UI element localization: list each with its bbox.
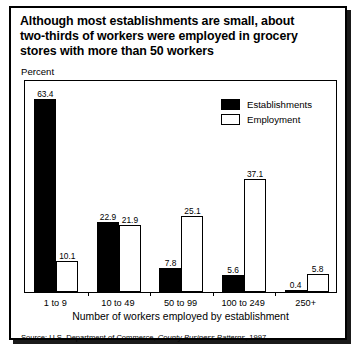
legend-label-employment: Employment [247,114,300,125]
legend-swatch-employment [221,114,240,125]
bar-employment-250+: 5.8 [307,274,329,292]
bar-value-label: 37.1 [247,170,263,179]
legend-swatch-establishments [221,99,240,110]
bar-establishments-10-to-49: 22.9 [97,222,119,292]
bar-value-label: 7.8 [165,259,177,268]
x-axis-tick-label: 250+ [295,298,316,309]
bar-establishments-100-to-249: 5.6 [222,275,244,292]
chart-title-line-1: Although most establishments are small, … [20,14,338,29]
bar-employment-10-to-49: 21.9 [119,225,141,292]
bar-employment-50-to-99: 25.1 [181,216,203,292]
bar-establishments-1-to-9: 63.4 [34,99,56,292]
legend-item-employment: Employment [221,114,312,125]
x-axis-tick [275,292,276,296]
x-axis-tick-label: 10 to 49 [101,298,134,309]
source-prefix: Source: U.S. Department of Commerce, [21,333,158,342]
bar-value-label: 5.6 [227,266,239,275]
x-axis-tick [213,292,214,296]
bar-group: 22.921.9 [88,81,151,292]
x-axis-tick-label: 1 to 9 [44,298,67,309]
figure-panel: Although most establishments are small, … [9,6,347,340]
chart-title-line-2: two-thirds of workers were employed in g… [20,29,338,44]
source-suffix: , 1997 [245,333,266,342]
x-axis-tick [88,292,89,296]
bar-value-label: 25.1 [184,207,200,216]
legend-item-establishments: Establishments [221,99,312,110]
bar-group: 63.410.1 [25,81,88,292]
bar-value-label: 63.4 [37,90,53,99]
chart-title: Although most establishments are small, … [20,14,338,60]
bar-establishments-50-to-99: 7.8 [159,268,181,292]
source-publication: County Business Patterns [158,333,245,342]
bar-employment-100-to-249: 37.1 [244,179,266,292]
x-axis-tick-label: 100 to 249 [221,298,264,309]
legend-label-establishments: Establishments [247,99,312,110]
bar-value-label: 22.9 [100,213,116,222]
chart-title-line-3: stores with more than 50 workers [20,44,338,59]
bar-value-label: 0.4 [290,281,302,290]
x-axis-tick [150,292,151,296]
chart-legend: Establishments Employment [221,99,312,129]
x-axis-title: Number of workers employed by establishm… [24,311,337,322]
bar-group: 7.825.1 [150,81,213,292]
bar-value-label: 5.8 [312,265,324,274]
plot-area: 63.410.122.921.97.825.15.637.10.45.8 Est… [24,80,337,293]
y-axis-unit-label: Percent [21,66,54,77]
bar-value-label: 21.9 [122,216,138,225]
bar-employment-1-to-9: 10.1 [56,261,78,292]
source-note: Source: U.S. Department of Commerce, Cou… [21,333,266,342]
bar-value-label: 10.1 [59,252,75,261]
x-axis-tick-label: 50 to 99 [164,298,197,309]
x-axis-tick-labels: 1 to 910 to 4950 to 99100 to 249250+ [24,298,337,310]
bar-establishments-250+: 0.4 [285,290,307,292]
